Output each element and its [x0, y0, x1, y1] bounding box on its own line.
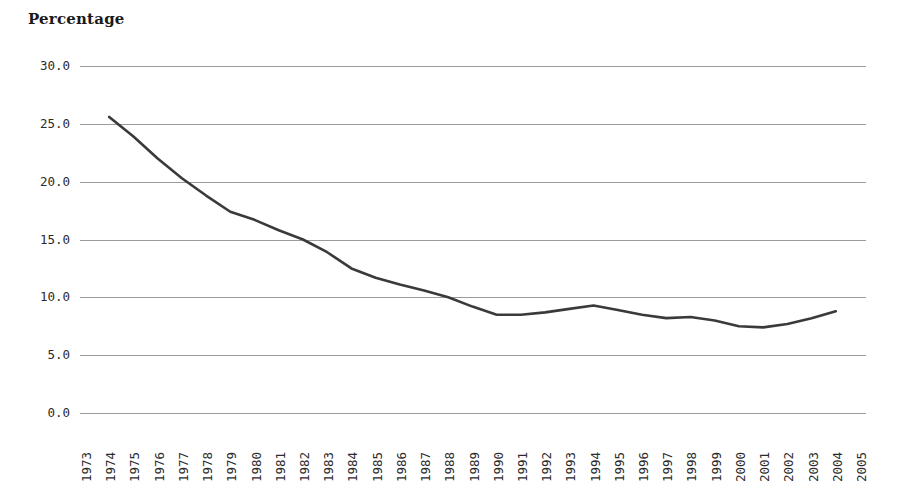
x-axis-tick-label: 1974: [103, 452, 118, 482]
x-axis-tick-label: 1995: [612, 452, 627, 482]
x-axis-tick-label: 1988: [442, 452, 457, 482]
x-axis-tick-label: 2000: [733, 452, 748, 482]
y-axis-tick-label: 5.0: [18, 347, 70, 362]
x-axis-tick-label: 1977: [176, 452, 191, 482]
x-axis-tick-label: 1989: [467, 452, 482, 482]
gridline: [80, 297, 866, 298]
x-axis-tick-label: 1984: [345, 452, 360, 482]
gridline: [80, 124, 866, 125]
x-axis-tick-label: 1976: [152, 452, 167, 482]
plot-area: 30.025.020.015.010.05.00.0 1973197419751…: [0, 0, 902, 490]
x-axis-tick-label: 1991: [515, 452, 530, 482]
x-axis-tick-label: 2001: [757, 452, 772, 482]
x-axis-tick-label: 1975: [127, 452, 142, 482]
gridline: [80, 182, 866, 183]
y-axis-tick-label: 20.0: [18, 174, 70, 189]
y-axis-tick-label: 25.0: [18, 116, 70, 131]
gridline: [80, 66, 866, 67]
x-axis-tick-label: 1993: [563, 452, 578, 482]
x-axis-tick-label: 1996: [636, 452, 651, 482]
x-axis-tick-label: 1979: [224, 452, 239, 482]
series-layer: [0, 0, 902, 490]
x-axis-tick-label: 2002: [781, 452, 796, 482]
percentage-line-chart: Percentage 30.025.020.015.010.05.00.0 19…: [0, 0, 902, 490]
x-axis-tick-label: 1998: [684, 452, 699, 482]
y-axis-tick-label: 0.0: [18, 405, 70, 420]
y-axis-tick-label: 10.0: [18, 289, 70, 304]
x-axis-tick-label: 1978: [200, 452, 215, 482]
x-axis-tick-label: 1980: [249, 452, 264, 482]
x-axis-tick-label: 1999: [709, 452, 724, 482]
y-axis-tick-label: 30.0: [18, 58, 70, 73]
x-axis-tick-label: 1982: [297, 452, 312, 482]
x-axis-tick-label: 1986: [394, 452, 409, 482]
x-axis-tick-label: 2005: [854, 452, 869, 482]
x-axis-tick-label: 1997: [660, 452, 675, 482]
series-line-percentage: [109, 117, 836, 328]
x-axis-tick-label: 2003: [806, 452, 821, 482]
gridline: [80, 413, 866, 414]
y-axis-tick-label: 15.0: [18, 232, 70, 247]
x-axis-tick-label: 1987: [418, 452, 433, 482]
gridline: [80, 240, 866, 241]
x-axis-tick-label: 1983: [321, 452, 336, 482]
x-axis-tick-label: 1973: [79, 452, 94, 482]
x-axis-tick-label: 1994: [588, 452, 603, 482]
gridline: [80, 355, 866, 356]
x-axis-tick-label: 1985: [370, 452, 385, 482]
x-axis-tick-label: 1992: [539, 452, 554, 482]
x-axis-tick-label: 1990: [491, 452, 506, 482]
x-axis-tick-label: 2004: [830, 452, 845, 482]
x-axis-tick-label: 1981: [273, 452, 288, 482]
